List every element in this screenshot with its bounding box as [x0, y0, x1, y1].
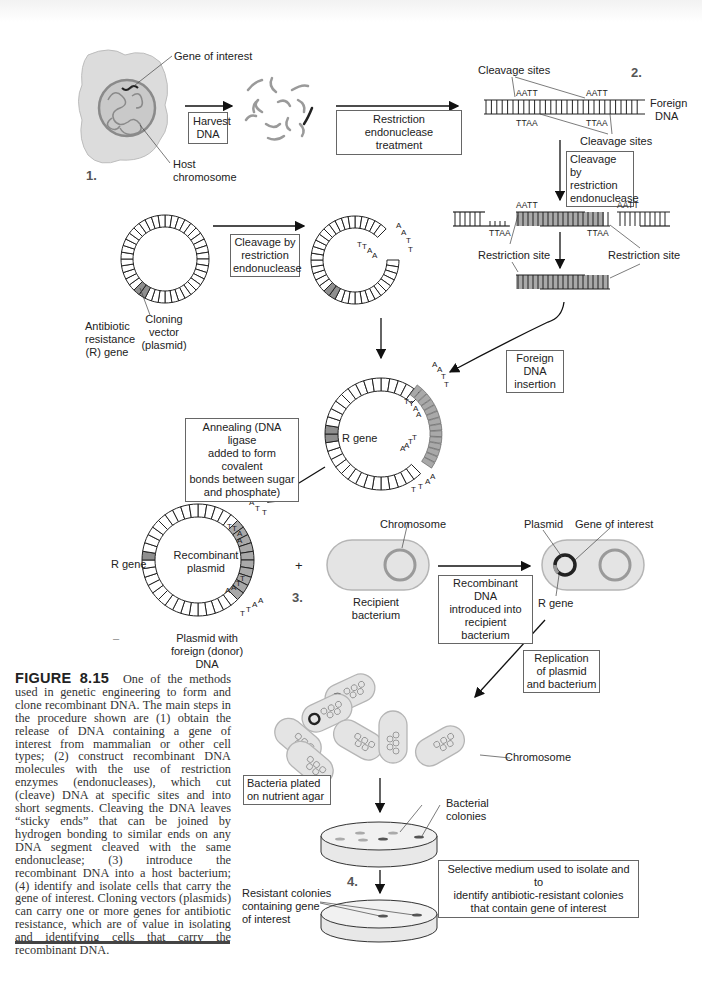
label-line: resistance	[85, 333, 129, 346]
r-gene-mid-label: R gene	[342, 432, 377, 445]
box-line: on nutrient agar	[247, 790, 327, 803]
foreign-dna-label-1: Foreign	[650, 97, 687, 110]
cleavage-sites-bottom-label: Cleavage sites	[580, 135, 652, 148]
label-line: Bacterial	[446, 797, 489, 810]
sticky-base-letter: T	[240, 609, 245, 618]
label-line: plasmid	[168, 562, 244, 575]
box-line: Foreign DNA	[509, 352, 561, 378]
label-line: Plasmid with	[166, 632, 248, 645]
bacteria-cluster	[269, 669, 469, 790]
antibiotic-resistance-label: Antibioticresistance(R) gene	[85, 320, 129, 359]
box-line: Harvest	[193, 115, 223, 128]
bacterium-body	[379, 711, 407, 763]
recipient-bacterium	[327, 522, 429, 590]
cloning-vector-label: Cloningvector(plasmid)	[141, 313, 187, 352]
label-line: (plasmid)	[141, 339, 187, 352]
dna-fragments	[246, 78, 308, 140]
box-line: Cleavage by	[233, 236, 297, 249]
box-line: and phosphate)	[188, 486, 296, 499]
box-line: Recombinant DNA	[441, 577, 530, 603]
harvest-dna-box: HarvestDNA	[188, 112, 228, 144]
seq-ttaa-cut-1: TTAA	[489, 228, 511, 238]
step-1-label: 1.	[86, 168, 97, 183]
r-gene-left-label: R gene	[111, 558, 146, 571]
label-line: colonies	[446, 810, 489, 823]
cleavage-sites-top-label: Cleavage sites	[478, 64, 550, 77]
step-3-label: 3.	[292, 590, 303, 605]
seq-ttaa-2: TTAA	[586, 118, 608, 128]
plus-sign: +	[295, 559, 303, 572]
step-4-label: 4.	[347, 874, 358, 889]
foreign-insert-segment	[430, 431, 442, 437]
plasmid-with-foreign-label: Plasmid withforeign (donor)DNA	[166, 632, 248, 671]
cleavage-left-box: Cleavage byrestrictionendonuclease	[230, 234, 300, 277]
seq-aatt-cut-1: AATT	[516, 200, 538, 210]
plasmid-segment	[198, 602, 207, 616]
selective-medium-box: Selective medium used to isolate and toi…	[438, 860, 639, 918]
box-line: that contain gene of interest	[442, 902, 635, 915]
box-line: endonuclease	[233, 262, 297, 275]
box-line: recipient bacterium	[441, 616, 530, 642]
sticky-base-letter: A	[430, 472, 436, 481]
bacterial-colonies-label: Bacterialcolonies	[446, 797, 489, 823]
restriction-treatment-box: Restriction endonucleasetreatment	[336, 110, 462, 155]
plasmid-label: Plasmid	[524, 518, 563, 531]
step-2-label: 2.	[631, 65, 642, 80]
sticky-base-letter: T	[418, 482, 423, 491]
plasmid-segment	[381, 476, 390, 490]
box-line: Replication	[526, 652, 597, 665]
replication-box: Replicationof plasmidand bacterium	[523, 650, 600, 693]
caption-rule	[15, 941, 230, 944]
plated-box: Bacteria platedon nutrient agar	[243, 775, 331, 805]
nucleus	[99, 80, 155, 136]
chromosome-cluster-label: Chromosome	[505, 751, 571, 764]
figure-caption-text: One of the methods used in genetic engin…	[15, 672, 231, 957]
label-line: Cloning	[141, 313, 187, 326]
figure-caption: FIGURE 8.15 One of the methods used in g…	[15, 672, 231, 957]
cleavage-right-box: Cleavage byrestrictionendonuclease	[566, 151, 634, 207]
label-line: Recombinant	[168, 549, 244, 562]
sticky-base-letter: T	[412, 433, 417, 442]
plasmid-segment	[189, 504, 198, 518]
sticky-base-letter: T	[262, 508, 267, 517]
sticky-base-letter: T	[255, 504, 260, 513]
label-line: Antibiotic	[85, 320, 129, 333]
sticky-base-letter: A	[237, 536, 243, 545]
recombinant-intro-box: Recombinant DNAintroduced intorecipient …	[438, 575, 533, 644]
sticky-base-letter: T	[240, 574, 245, 583]
sticky-base-letter: T	[246, 605, 251, 614]
seq-ttaa-1: TTAA	[516, 118, 538, 128]
box-line: and bacterium	[526, 678, 597, 691]
sticky-base-letter: A	[258, 596, 264, 605]
box-line: of plasmid	[526, 665, 597, 678]
foreign-segment-fill	[516, 212, 604, 226]
host-chromosome-label-1: Host	[173, 158, 196, 171]
sticky-base-letter: A	[372, 251, 378, 260]
bacterium	[410, 721, 469, 771]
agar-plate-1	[321, 805, 440, 867]
box-line: restriction	[570, 179, 630, 192]
figure-number: FIGURE 8.15	[15, 670, 109, 686]
label-line: (R) gene	[85, 346, 129, 359]
foreign-dna-label-2: DNA	[655, 110, 678, 123]
box-line: Selective medium used to isolate and to	[442, 863, 635, 889]
cut-plasmid: AATTTTAA	[311, 216, 413, 304]
box-line: bonds between sugar	[188, 473, 296, 486]
recipient-bacterium-label: Recipientbacterium	[350, 596, 402, 622]
isolated-foreign-fill	[516, 275, 608, 289]
box-line: Restriction endonuclease	[341, 113, 457, 139]
label-line: of interest	[242, 913, 331, 926]
seq-aatt-2: AATT	[586, 88, 608, 98]
box-line: Cleavage by	[570, 153, 630, 179]
label-line: vector	[141, 326, 187, 339]
annealing-box: Annealing (DNA ligaseadded to form coval…	[185, 418, 299, 502]
label-line: bacterium	[350, 609, 402, 622]
foreign-dna-ladder	[484, 100, 645, 114]
box-line: treatment	[341, 139, 457, 152]
host-chromosome-label-2: chromosome	[173, 171, 237, 184]
foreign-dna-insertion-box: Foreign DNAinsertion	[506, 350, 564, 393]
recombinant-plasmid-label: Recombinantplasmid	[168, 549, 244, 575]
restriction-site-left-label: Restriction site	[478, 249, 550, 262]
seq-ttaa-cut-2: TTAA	[587, 228, 609, 238]
agar-plate-2	[320, 900, 437, 942]
